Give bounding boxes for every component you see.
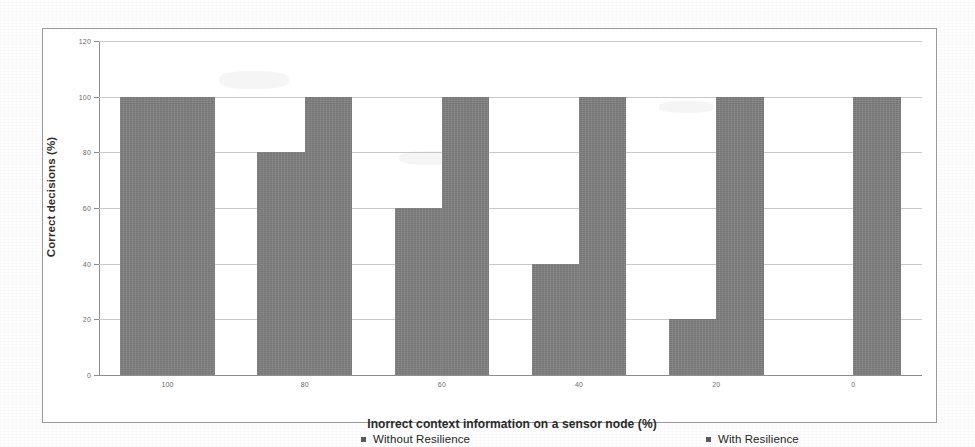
bar [305, 97, 352, 375]
bar [669, 319, 716, 375]
legend-swatch-icon [706, 437, 711, 442]
plot-area: 020406080100120 100806040200 [99, 41, 922, 375]
y-tick-mark [94, 152, 99, 153]
x-tick-label: 80 [301, 381, 309, 388]
gridline [99, 264, 922, 265]
y-tick-mark [94, 97, 99, 98]
y-tick-label: 60 [83, 205, 91, 212]
x-tick-label: 60 [438, 381, 446, 388]
y-tick-mark [94, 41, 99, 42]
bar [853, 97, 900, 375]
scan-smudge [659, 101, 714, 113]
gridline [99, 319, 922, 320]
legend-label: With Resilience [718, 433, 799, 445]
gridline [99, 41, 922, 42]
x-tick-label: 100 [161, 381, 173, 388]
figure-frame: 020406080100120 100806040200 Correct dec… [42, 28, 937, 423]
legend-label: Without Resilience [373, 433, 470, 445]
x-tick-label: 20 [712, 381, 720, 388]
gridline [99, 97, 922, 98]
scan-smudge [219, 71, 289, 89]
bar [395, 208, 442, 375]
x-tick-label: 0 [851, 381, 855, 388]
y-tick-label: 0 [87, 372, 91, 379]
gridline [99, 152, 922, 153]
y-tick-label: 40 [83, 260, 91, 267]
bar [579, 97, 626, 375]
gridline [99, 375, 922, 376]
x-tick-label: 40 [575, 381, 583, 388]
bar [168, 97, 215, 375]
y-tick-label: 80 [83, 149, 91, 156]
bar [716, 97, 763, 375]
y-tick-mark [94, 375, 99, 376]
legend: Without Resilience With Resilience [43, 433, 936, 447]
legend-swatch-icon [361, 437, 366, 442]
bar [532, 264, 579, 375]
y-tick-label: 20 [83, 316, 91, 323]
y-tick-label: 100 [79, 93, 91, 100]
bar [257, 152, 304, 375]
y-axis-title: Correct decisions (%) [45, 137, 57, 257]
legend-entry-with-resilience: With Resilience [706, 433, 799, 445]
y-tick-mark [94, 264, 99, 265]
bar [442, 97, 489, 375]
bar [120, 97, 167, 375]
legend-entry-without-resilience: Without Resilience [361, 433, 470, 445]
y-tick-mark [94, 319, 99, 320]
x-axis-title: Inorrect context information on a sensor… [367, 417, 657, 431]
y-tick-mark [94, 208, 99, 209]
y-tick-label: 120 [79, 38, 91, 45]
gridline [99, 208, 922, 209]
